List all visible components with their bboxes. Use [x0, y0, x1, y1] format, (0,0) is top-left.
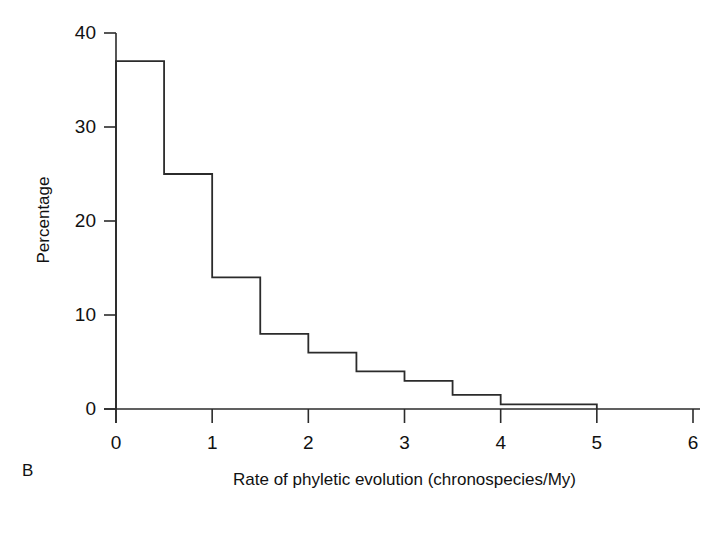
x-tick-label: 1 [207, 432, 218, 453]
x-tick-label: 3 [399, 432, 410, 453]
y-axis-title: Percentage [34, 120, 54, 320]
x-tick-label: 5 [592, 432, 603, 453]
x-tick-label: 2 [303, 432, 314, 453]
figure-panel-b: Percentage B Rate of phyletic evolution … [0, 0, 723, 533]
y-tick-label: 10 [75, 304, 96, 325]
y-axis-ticks: 010203040 [75, 22, 116, 419]
x-tick-label: 0 [111, 432, 122, 453]
x-axis-title: Rate of phyletic evolution (chronospecie… [116, 470, 693, 490]
x-tick-label: 6 [688, 432, 699, 453]
x-axis-ticks: 0123456 [111, 409, 699, 453]
x-tick-label: 4 [495, 432, 506, 453]
panel-label: B [22, 461, 34, 481]
chart-canvas: 010203040 0123456 [0, 0, 723, 533]
y-tick-label: 0 [85, 398, 96, 419]
y-tick-label: 40 [75, 22, 96, 43]
y-tick-label: 30 [75, 116, 96, 137]
y-tick-label: 20 [75, 210, 96, 231]
histogram-step-outline [116, 61, 597, 409]
